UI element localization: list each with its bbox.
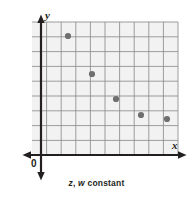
data-point [65,33,71,39]
plot-canvas: y x 0 [0,0,193,197]
origin-label: 0 [31,158,37,169]
x-axis-label: x [171,139,178,151]
caption-variable-w: w [78,178,85,188]
arrow-up-icon [37,15,44,24]
figure-caption: z, w constant [0,178,193,188]
caption-suffix: constant [85,178,125,188]
arrow-right-icon [178,151,187,158]
data-point [113,96,119,102]
data-point [89,71,95,77]
scatter-plot-figure: y x 0 z, w constant [0,0,193,197]
arrow-left-icon [23,151,32,158]
y-axis-label: y [43,9,50,21]
data-point [164,116,170,122]
data-point [138,112,144,118]
